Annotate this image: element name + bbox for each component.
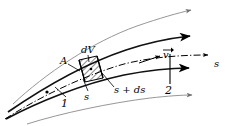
- stream-tube-figure: A dV s s + ds v s 1 2: [0, 0, 228, 126]
- stream-tube-drawing: [0, 0, 228, 126]
- label-control-volume-dV: dV: [81, 45, 95, 55]
- label-station-2: 2: [165, 85, 172, 96]
- velocity-vector-arrow: [139, 56, 160, 63]
- label-velocity-vector: v: [163, 50, 169, 60]
- label-position-s-plus-ds: s + ds: [114, 85, 145, 95]
- label-area-A: A: [60, 56, 67, 66]
- label-position-s: s: [84, 92, 89, 102]
- station-1-dot: [45, 90, 48, 93]
- control-volume-center-dot: [90, 68, 93, 71]
- streamline-outer-bottom: [27, 95, 192, 124]
- leader-line-A: [68, 64, 80, 71]
- label-station-1: 1: [61, 98, 68, 109]
- centerline-s-axis: [5, 55, 208, 119]
- label-axis-s: s: [214, 59, 219, 69]
